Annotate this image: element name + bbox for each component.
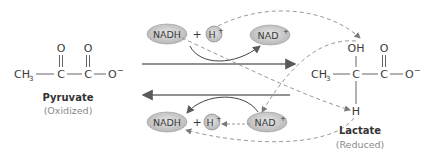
pyruvate-label: Pyruvate <box>43 92 94 103</box>
forward-cofactors: NADH + H + NAD + <box>147 24 290 61</box>
lactate-o2: O <box>405 68 414 81</box>
pyruvate-c1: C <box>57 68 65 81</box>
lactate-c2: C <box>380 68 388 81</box>
lactate-structure: OH O CH 3 C C O − H <box>311 42 421 118</box>
lactate-oh: OH <box>348 42 365 55</box>
reaction-diagram: O O CH 3 C C O − Pyruvate (Oxidized) NAD… <box>0 0 434 158</box>
pyruvate-structure: O O CH 3 C C O − <box>14 42 124 83</box>
lactate-o1: O <box>380 42 389 55</box>
lactate-h: H <box>352 105 360 118</box>
h-label-top: H <box>208 29 215 40</box>
nad-sup-bottom: + <box>280 115 286 123</box>
h-label-bottom: H <box>206 117 213 128</box>
lactate-label: Lactate <box>339 125 381 136</box>
nad-label-bottom: NAD <box>255 117 276 128</box>
nadh-label-top: NADH <box>153 29 181 40</box>
lactate-ch: CH <box>311 68 327 81</box>
pyruvate-o3: O <box>108 68 117 81</box>
oxidation-curve-arrow <box>190 46 260 61</box>
h-sup-bottom: + <box>216 115 222 123</box>
plus-top: + <box>192 28 201 41</box>
pyruvate-state: (Oxidized) <box>44 105 93 116</box>
plus-bottom: + <box>192 116 201 129</box>
dashed-arrow-oh-to-nad <box>262 41 356 112</box>
nad-sup-top: + <box>283 28 289 36</box>
reverse-cofactors: NADH + H + NAD + <box>147 97 287 132</box>
lactate-3: 3 <box>326 75 330 83</box>
lactate-c1: C <box>352 68 360 81</box>
pyruvate-o2: O <box>84 42 93 55</box>
pyruvate-3: 3 <box>29 75 33 83</box>
lactate-state: (Reduced) <box>336 139 385 150</box>
pyruvate-c2: C <box>84 68 92 81</box>
reduction-curve-arrow <box>187 97 258 113</box>
lactate-minus: − <box>414 66 421 75</box>
h-sup-top: + <box>218 27 224 35</box>
pyruvate-o1: O <box>57 42 66 55</box>
nadh-label-bottom: NADH <box>153 117 181 128</box>
pyruvate-ch: CH <box>14 68 30 81</box>
pyruvate-minus: − <box>117 66 124 75</box>
nad-label-top: NAD <box>258 30 279 41</box>
